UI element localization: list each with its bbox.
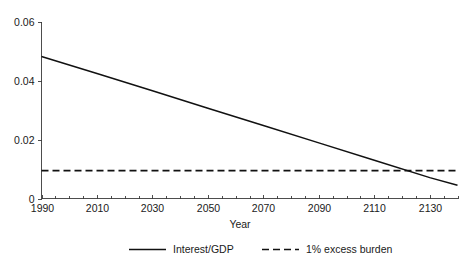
chart-legend: Interest/GDP 1% excess burden (129, 243, 393, 255)
y-tick-label: 0.04 (14, 75, 35, 87)
x-tick-label: 2050 (197, 202, 221, 214)
line-chart: 00.020.040.06 19902010203020502070209021… (0, 0, 474, 265)
x-tick-label: 2130 (419, 202, 443, 214)
x-axis-tick-labels: 19902010203020502070209021102130 (31, 202, 443, 214)
series-line-interest-gdp (42, 56, 458, 185)
series-layer (42, 56, 458, 185)
y-axis-ticks (38, 23, 42, 200)
x-axis: 19902010203020502070209021102130 (31, 195, 459, 214)
y-tick-label: 0.02 (14, 134, 35, 146)
y-axis-tick-labels: 00.020.040.06 (14, 16, 35, 205)
legend-item-excess-burden: 1% excess burden (262, 243, 393, 255)
x-axis-title: Year (229, 218, 251, 230)
y-tick-label: 0.06 (14, 16, 35, 28)
legend-item-interest-gdp: Interest/GDP (129, 243, 234, 255)
x-tick-label: 2110 (363, 202, 386, 214)
x-tick-label: 1990 (31, 202, 55, 214)
x-tick-label: 2010 (86, 202, 110, 214)
x-tick-label: 2090 (308, 202, 332, 214)
y-axis: 00.020.040.06 (14, 16, 41, 205)
x-tick-label: 2030 (141, 202, 165, 214)
legend-label-excess-burden: 1% excess burden (306, 243, 393, 255)
legend-label-interest-gdp: Interest/GDP (173, 243, 234, 255)
chart-container: 00.020.040.06 19902010203020502070209021… (0, 0, 474, 265)
x-tick-label: 2070 (252, 202, 276, 214)
